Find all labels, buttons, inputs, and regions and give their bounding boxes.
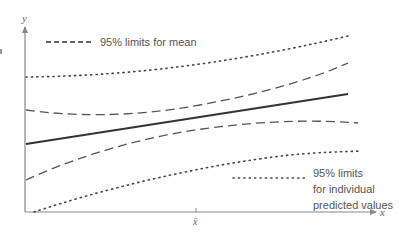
- legend-prediction-label-line-2: for individual: [313, 183, 375, 195]
- legend-prediction-limits: 95% limits for individual predicted valu…: [233, 167, 394, 211]
- legend-mean-label: 95% limits for mean: [100, 36, 197, 48]
- x-mean-label: x̄: [192, 216, 198, 227]
- legend-prediction-label-line-3: predicted values: [313, 199, 394, 211]
- lower-prediction-limit: [34, 151, 360, 212]
- y-axis-label: y: [21, 12, 27, 24]
- upper-mean-limit: [26, 63, 348, 115]
- edge-mark: [0, 49, 2, 54]
- legend-mean-limits: 95% limits for mean: [46, 36, 197, 48]
- legend-prediction-label-line-1: 95% limits: [313, 167, 364, 179]
- diagram-canvas: y x x̄ 95% limits for mean 95% limits fo…: [0, 0, 399, 233]
- regression-line: [26, 94, 348, 144]
